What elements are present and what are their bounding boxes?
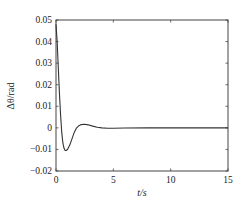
line-chart: −0.02−0.0100.010.020.030.040.05 051015 t…: [0, 0, 240, 204]
y-tick-label: 0: [47, 123, 52, 133]
x-axis: 051015: [54, 20, 233, 185]
data-line: [56, 24, 228, 150]
y-tick-label: 0.05: [35, 15, 52, 25]
plot-frame: [56, 20, 228, 171]
y-tick-label: 0.01: [35, 101, 52, 111]
x-axis-label: t/s: [137, 187, 147, 198]
y-tick-label: 0.03: [35, 58, 52, 68]
x-tick-label: 10: [166, 175, 176, 185]
y-tick-label: 0.04: [35, 37, 52, 47]
y-tick-label: −0.02: [30, 166, 52, 176]
y-tick-label: −0.01: [30, 144, 52, 154]
y-tick-label: 0.02: [35, 80, 52, 90]
x-tick-label: 15: [223, 175, 233, 185]
y-axis-label: Δθ/rad: [5, 83, 16, 110]
x-tick-label: 5: [111, 175, 116, 185]
x-tick-label: 0: [54, 175, 59, 185]
